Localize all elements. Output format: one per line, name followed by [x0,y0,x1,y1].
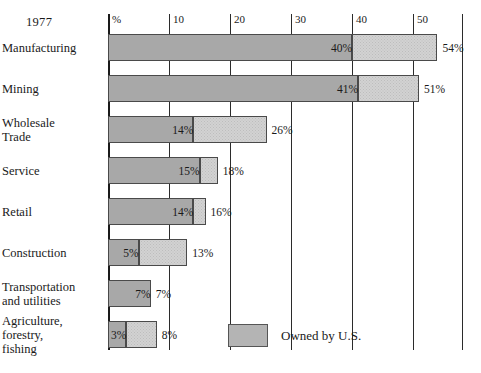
bar-owned-value: 14% [108,124,197,136]
bar-total-value: 13% [187,247,213,259]
chart-row: Service15%18% [108,157,462,184]
bar-chart: 1977 %1020304050Manufacturing40%54%Minin… [0,0,481,373]
bar-segment-remainder [126,321,157,348]
owned-by-us-swatch [228,324,268,347]
row-label: Transportation and utilities [2,280,98,308]
chart-row: Manufacturing40%54% [108,34,462,61]
plot-area: %1020304050Manufacturing40%54%Mining41%5… [108,14,462,350]
tick-label-50: 50 [413,13,428,25]
chart-row: Retail14%16% [108,198,462,225]
chart-row: Mining41%51% [108,75,462,102]
chart-legend: Owned by U.S. [228,324,361,347]
row-label: Wholesale Trade [2,116,98,144]
tick-label-40: 40 [352,13,367,25]
tick-label-%: % [108,13,121,25]
bar-total-value: 7% [151,288,171,300]
row-label: Retail [2,205,98,219]
bar-total-value: 51% [419,83,445,95]
legend-label: Owned by U.S. [281,328,361,344]
row-label: Manufacturing [2,41,98,55]
bar-total-value: 54% [437,42,463,54]
bar-owned-value: 14% [108,206,197,218]
row-label: Mining [2,82,98,96]
chart-row: Wholesale Trade14%26% [108,116,462,143]
bar-owned-value: 7% [108,288,155,300]
bar-owned-value: 41% [108,83,362,95]
tick-label-30: 30 [291,13,306,25]
bar-owned-value: 15% [108,165,204,177]
bar-owned-value: 5% [108,247,143,259]
bar-owned-value: 3% [108,329,130,341]
chart-row: Transportation and utilities7%7% [108,280,462,307]
row-label: Service [2,164,98,178]
bar-total-value: 16% [206,206,232,218]
row-label: Agriculture, forestry, fishing [2,314,98,356]
bar-segment-remainder [193,116,266,143]
bar-total-value: 8% [157,329,177,341]
bar-segment-remainder [352,34,437,61]
chart-row: Construction5%13% [108,239,462,266]
year-caption: 1977 [26,15,52,30]
tick-label-10: 10 [169,13,184,25]
row-label: Construction [2,246,98,260]
tick-label-20: 20 [230,13,245,25]
bar-total-value: 18% [218,165,244,177]
bar-owned-value: 40% [108,42,356,54]
bar-segment-remainder [358,75,419,102]
bar-segment-remainder [139,239,188,266]
bar-total-value: 26% [267,124,293,136]
